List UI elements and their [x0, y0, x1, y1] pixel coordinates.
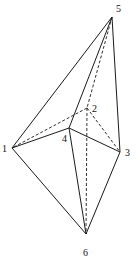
dashed-edge-2-3	[87, 108, 120, 152]
solid-edge-5-4	[69, 17, 112, 128]
vertex-label-6: 6	[83, 247, 88, 258]
solid-edge-1-5	[12, 17, 112, 148]
dashed-edge-2-1	[12, 108, 87, 148]
solid-edge-1-4	[12, 128, 69, 148]
solid-edge-5-3	[112, 17, 120, 152]
hidden-dashed-edges	[12, 17, 120, 234]
solid-edge-1-6	[12, 148, 86, 234]
vertex-label-2: 2	[92, 103, 97, 114]
solid-edge-4-3	[69, 128, 120, 152]
polyhedron-diagram: 1 2 3 4 5 6	[0, 0, 136, 269]
dashed-edge-2-6	[86, 108, 87, 234]
vertex-labels: 1 2 3 4 5 6	[2, 3, 130, 258]
solid-edge-4-6	[69, 128, 86, 234]
vertex-label-3: 3	[125, 147, 130, 158]
solid-edge-3-6	[86, 152, 120, 234]
vertex-label-1: 1	[2, 143, 7, 154]
vertex-label-4: 4	[62, 133, 67, 144]
solid-edges	[12, 17, 120, 234]
vertex-label-5: 5	[116, 3, 121, 14]
dashed-edge-5-2	[87, 17, 112, 108]
